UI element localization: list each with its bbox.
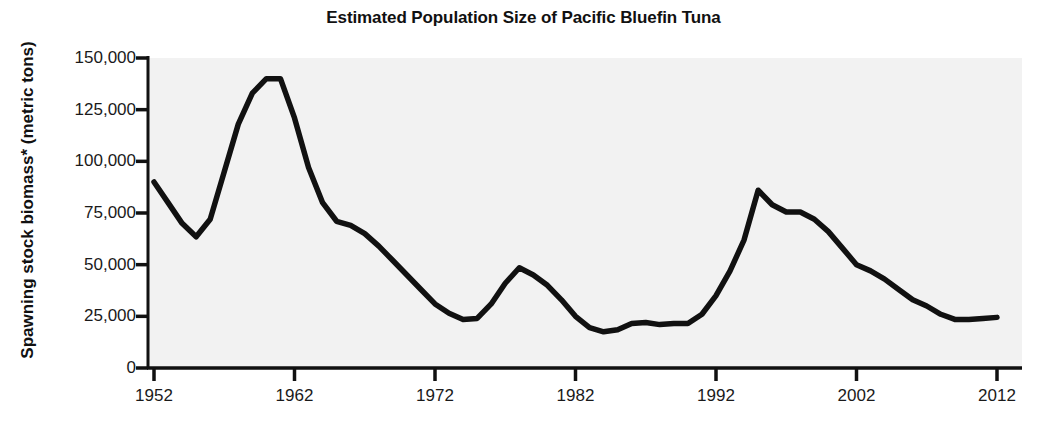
x-tick-label: 2012: [952, 386, 1042, 406]
x-tick-label: 1992: [671, 386, 761, 406]
x-axis-tick-marks: [154, 368, 997, 381]
x-tick-label: 1962: [250, 386, 340, 406]
chart-page: Estimated Population Size of Pacific Blu…: [0, 0, 1047, 437]
x-tick-label: 2002: [812, 386, 902, 406]
y-axis-tick-marks: [136, 58, 148, 368]
x-tick-label: 1952: [109, 386, 199, 406]
plot-area: 1952196219721982199220022012: [0, 0, 1047, 437]
line-chart-svg: [0, 0, 1047, 437]
x-tick-label: 1972: [390, 386, 480, 406]
x-tick-label: 1982: [531, 386, 621, 406]
